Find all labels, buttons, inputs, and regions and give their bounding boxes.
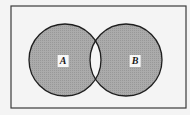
set-b-label: B bbox=[130, 55, 141, 67]
venn-diagram bbox=[0, 0, 190, 115]
set-a-label: A bbox=[58, 55, 69, 67]
